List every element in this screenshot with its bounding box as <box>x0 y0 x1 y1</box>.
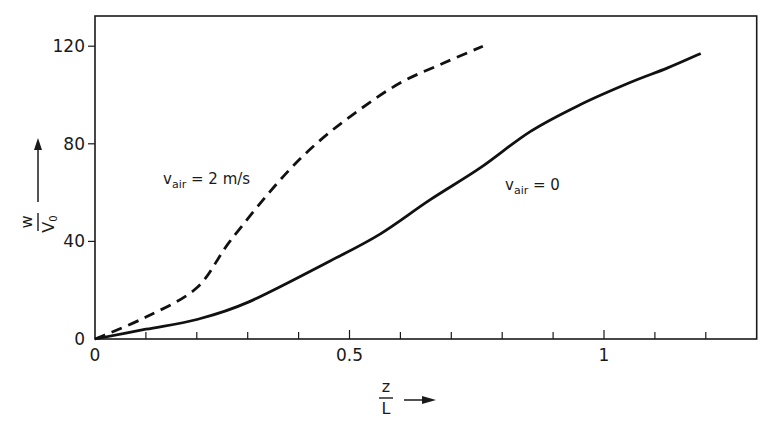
y-tick-label: 120 <box>53 36 85 56</box>
y-tick-label: 80 <box>63 134 85 154</box>
y-label-numerator: w <box>17 215 36 228</box>
chart: 00.51 04080120 vair = 2 m/s vair = 0 w V… <box>0 0 774 435</box>
curves <box>95 46 701 339</box>
curve-vair-2-dashed <box>95 46 483 339</box>
y-tick-label: 0 <box>74 329 85 349</box>
curve-label-vair-0: vair = 0 <box>505 176 560 197</box>
y-axis-arrow-icon <box>34 138 42 150</box>
x-axis-label: z L <box>379 377 436 418</box>
y-tick-label: 40 <box>63 231 85 251</box>
x-label-denominator: L <box>382 399 391 418</box>
x-axis-ticks: 00.51 <box>90 330 706 365</box>
x-tick-label: 0 <box>90 345 101 365</box>
x-axis-arrow-icon <box>422 396 436 404</box>
y-label-denominator: V0 <box>39 215 59 232</box>
y-axis-ticks: 04080120 <box>53 36 95 349</box>
x-label-numerator: z <box>382 377 390 396</box>
x-tick-label: 0.5 <box>336 345 363 365</box>
curve-label-vair-2: vair = 2 m/s <box>163 170 250 191</box>
x-tick-label: 1 <box>599 345 610 365</box>
y-axis-label: w V0 <box>17 138 59 233</box>
